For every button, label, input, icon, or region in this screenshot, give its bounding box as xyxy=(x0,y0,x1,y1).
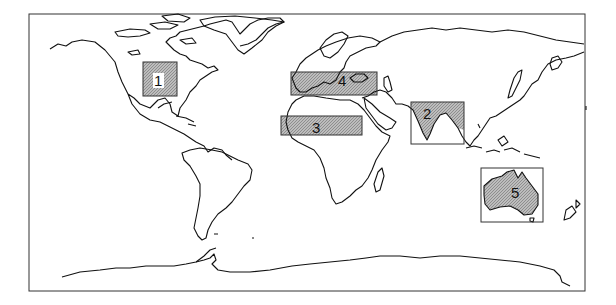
region-3-fill xyxy=(281,116,362,135)
coast-new-zealand xyxy=(564,200,580,220)
coast-south-america xyxy=(182,148,252,240)
coast-canadian-islands xyxy=(115,14,196,55)
coast-japan xyxy=(508,70,522,98)
region-2-label: 2 xyxy=(423,105,431,122)
coast-scandinavia xyxy=(320,32,348,58)
coast-caribbean xyxy=(158,102,196,126)
region-4-label: 4 xyxy=(338,72,346,89)
coast-antarctica xyxy=(62,254,570,286)
map-frame xyxy=(29,14,585,291)
coast-arabia xyxy=(364,98,396,130)
coast-tasmania xyxy=(530,218,534,222)
coast-madagascar xyxy=(374,168,384,192)
coastlines xyxy=(50,14,586,286)
region-5-label: 5 xyxy=(511,184,519,201)
coast-indonesia xyxy=(466,136,540,158)
coast-kamchatka xyxy=(550,56,562,70)
coast-greenland xyxy=(200,16,284,54)
world-map: 1 2 3 4 5 xyxy=(0,0,616,305)
region-3-label: 3 xyxy=(312,119,320,136)
region-1-label: 1 xyxy=(154,72,162,89)
coast-caspian xyxy=(384,76,392,92)
coast-asia xyxy=(362,28,584,146)
region-2-fill xyxy=(411,102,464,140)
